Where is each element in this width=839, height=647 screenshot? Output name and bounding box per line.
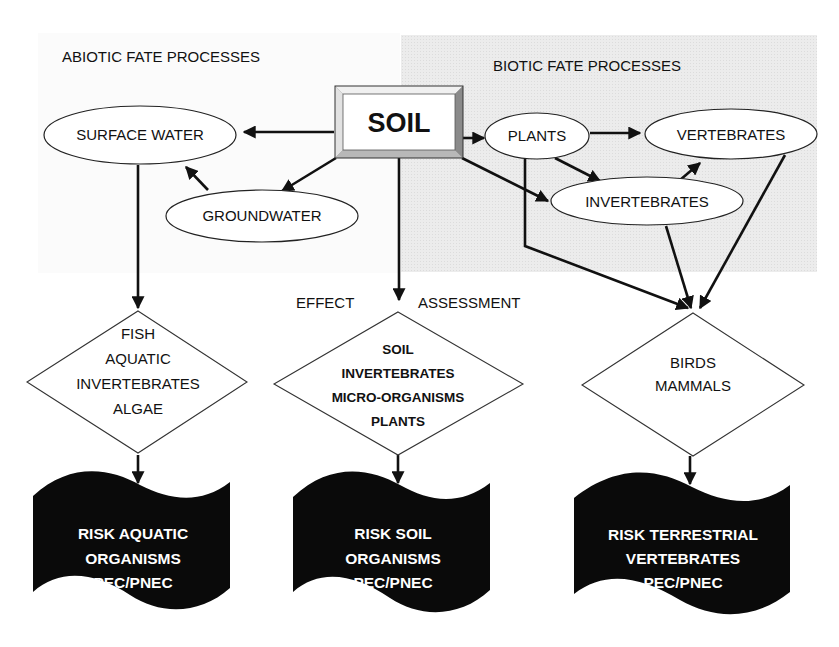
soil-risk-flow-diagram: ABIOTIC FATE PROCESSES BIOTIC FATE PROCE… xyxy=(0,0,839,647)
assessment-label: ASSESSMENT xyxy=(418,294,521,311)
risk-terrestrial-line-2: VERTEBRATES xyxy=(626,550,740,567)
biotic-header: BIOTIC FATE PROCESSES xyxy=(493,57,681,74)
risk-terrestrial: RISK TERRESTRIAL VERTEBRATES PEC/PNEC xyxy=(574,473,790,615)
node-invertebrates: INVERTEBRATES xyxy=(551,177,743,225)
diamond-soil-line-3: MICRO-ORGANISMS xyxy=(332,390,465,405)
node-vertebrates: VERTEBRATES xyxy=(645,109,817,159)
soil-label: SOIL xyxy=(367,108,430,138)
risk-aquatic: RISK AQUATIC ORGANISMS PEC/PNEC xyxy=(33,471,230,609)
vertebrates-label: VERTEBRATES xyxy=(677,126,786,143)
risk-soil-line-3: PEC/PNEC xyxy=(353,574,432,591)
diamond-aquatic-line-4: ALGAE xyxy=(113,400,163,417)
plants-label: PLANTS xyxy=(508,127,566,144)
risk-aquatic-line-3: PEC/PNEC xyxy=(93,574,172,591)
invertebrates-label: INVERTEBRATES xyxy=(585,193,709,210)
risk-soil: RISK SOIL ORGANISMS PEC/PNEC xyxy=(293,471,490,612)
surface-water-label: SURFACE WATER xyxy=(76,126,204,143)
diamond-aquatic-line-1: FISH xyxy=(121,325,155,342)
diamond-aquatic-line-3: INVERTEBRATES xyxy=(76,375,200,392)
risk-soil-line-2: ORGANISMS xyxy=(345,550,441,567)
effect-label: EFFECT xyxy=(296,294,354,311)
diamond-soil-line-4: PLANTS xyxy=(371,414,425,429)
risk-terrestrial-line-1: RISK TERRESTRIAL xyxy=(608,526,758,543)
risk-aquatic-line-2: ORGANISMS xyxy=(85,550,181,567)
abiotic-header: ABIOTIC FATE PROCESSES xyxy=(62,48,260,65)
diamond-soil-line-2: INVERTEBRATES xyxy=(341,366,454,381)
node-groundwater: GROUNDWATER xyxy=(166,190,358,242)
diamond-soil-organisms: SOIL INVERTEBRATES MICRO-ORGANISMS PLANT… xyxy=(274,312,523,455)
node-plants: PLANTS xyxy=(485,113,589,159)
diamond-birds-mammals: BIRDS MAMMALS xyxy=(582,313,804,456)
risk-aquatic-line-1: RISK AQUATIC xyxy=(78,525,188,542)
diamond-birds-line-1: BIRDS xyxy=(670,354,716,371)
soil-box: SOIL xyxy=(335,86,463,158)
diamond-aquatic: FISH AQUATIC INVERTEBRATES ALGAE xyxy=(27,311,247,453)
diamond-aquatic-line-2: AQUATIC xyxy=(105,350,171,367)
diamond-birds-line-2: MAMMALS xyxy=(655,377,731,394)
risk-soil-line-1: RISK SOIL xyxy=(354,525,432,542)
diamond-soil-line-1: SOIL xyxy=(382,342,414,357)
groundwater-label: GROUNDWATER xyxy=(202,207,321,224)
risk-terrestrial-line-3: PEC/PNEC xyxy=(643,574,722,591)
node-surface-water: SURFACE WATER xyxy=(44,106,236,164)
